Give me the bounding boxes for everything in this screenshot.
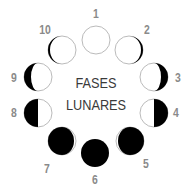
moon-phase-2-icon — [114, 35, 144, 65]
moon-phase-4-icon — [139, 98, 169, 128]
phase-number-1: 1 — [88, 6, 104, 22]
moon-phase-10-icon — [47, 35, 77, 65]
moon-phase-1-icon — [81, 25, 111, 55]
moon-phase-6-icon — [80, 138, 110, 168]
phase-number-5: 5 — [138, 156, 154, 172]
moon-phase-7-icon — [47, 126, 77, 156]
phase-number-2: 2 — [139, 22, 155, 38]
phase-number-6: 6 — [87, 172, 103, 188]
phase-number-9: 9 — [6, 70, 22, 86]
phase-number-10: 10 — [37, 22, 53, 38]
phase-number-4: 4 — [168, 105, 184, 121]
title-line-1: FASES — [54, 72, 139, 94]
diagram-title: FASES LUNARES — [54, 72, 139, 116]
moon-phase-8-icon — [23, 98, 53, 128]
moon-phase-3-icon — [139, 62, 169, 92]
moon-phase-5-icon — [115, 126, 145, 156]
moon-phase-9-icon — [23, 62, 53, 92]
phase-number-3: 3 — [170, 70, 186, 86]
moon-phases-diagram: FASES LUNARES 1 2 3 4 5 6 7 8 9 10 — [0, 0, 192, 189]
phase-number-8: 8 — [6, 105, 22, 121]
title-line-2: LUNARES — [54, 94, 139, 116]
phase-number-7: 7 — [39, 161, 55, 177]
